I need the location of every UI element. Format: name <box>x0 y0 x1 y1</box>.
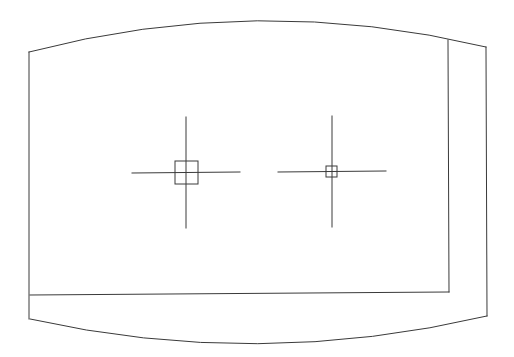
inner-bottom-edge <box>30 292 449 295</box>
top-arc <box>29 21 486 52</box>
inner-right-edge <box>448 40 449 292</box>
crosshair-large <box>132 117 240 228</box>
crosshair-markers <box>132 116 386 228</box>
background <box>0 0 514 357</box>
right-edge <box>486 47 487 316</box>
cad-drawing-canvas <box>0 0 514 357</box>
inner-frame <box>30 40 449 295</box>
outer-outline <box>29 21 487 344</box>
drawing-svg <box>0 0 514 357</box>
bottom-arc <box>30 316 487 344</box>
crosshair-small <box>278 116 386 227</box>
